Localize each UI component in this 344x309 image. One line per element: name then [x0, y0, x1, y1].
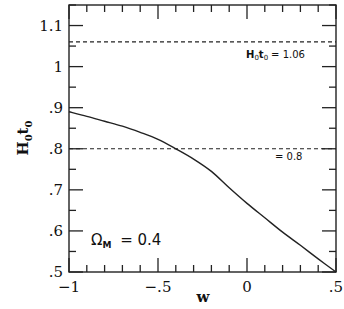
y-axis-label: H0t0: [14, 120, 34, 155]
y-tick-label: 1: [53, 58, 63, 76]
svg-text:H0t0: H0t0: [14, 120, 34, 155]
ref-line-label-1: H0t0= 1.06: [246, 49, 305, 62]
ref-line-label-2: = 0.8: [275, 151, 302, 162]
x-tick-label: 0: [242, 278, 252, 296]
y-tick-label: .8: [49, 140, 63, 158]
omega-annotation: ΩM = 0.4: [91, 231, 161, 250]
y-tick-label: .7: [49, 181, 63, 199]
y-tick-label: 1.1: [39, 17, 63, 35]
x-tick-label: −.5: [145, 278, 172, 296]
chart: −1−.50.5.5.6.7.8.911.1 w H0t0 H0t0= 1.06…: [0, 0, 344, 309]
x-tick-label: .5: [329, 278, 343, 296]
plot-frame: [69, 5, 336, 272]
y-tick-label: .6: [49, 222, 63, 240]
x-axis-label: w: [196, 288, 211, 306]
y-tick-label: .9: [49, 99, 63, 117]
y-tick-label: .5: [49, 263, 63, 281]
ticks-group: [69, 5, 336, 272]
